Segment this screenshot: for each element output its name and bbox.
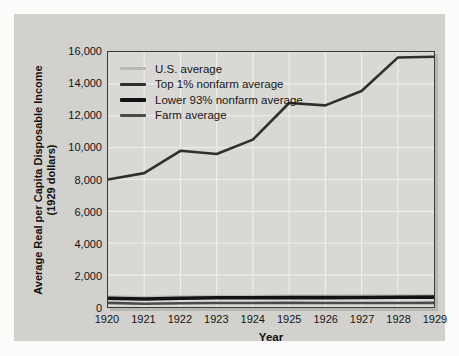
legend-item-lower-93-nonfarm-average: Lower 93% nonfarm average bbox=[120, 92, 303, 108]
legend-label: Farm average bbox=[155, 109, 227, 121]
figure-panel: Average Real per Capita Disposable Incom… bbox=[14, 14, 445, 341]
legend-label: U.S. average bbox=[155, 63, 222, 75]
y-axis-title-line1: Average Real per Capita Disposable Incom… bbox=[32, 52, 45, 309]
y-tick-label: 14,000 bbox=[50, 77, 102, 89]
y-tick-label: 16,000 bbox=[50, 45, 102, 57]
legend-label: Top 1% nonfarm average bbox=[155, 78, 284, 90]
y-tick-label: 8,000 bbox=[50, 174, 102, 186]
legend-line-swatch bbox=[120, 114, 146, 117]
legend: U.S. averageTop 1% nonfarm averageLower … bbox=[120, 61, 303, 123]
figure-screenshot: Average Real per Capita Disposable Incom… bbox=[0, 0, 459, 356]
legend-line-swatch bbox=[120, 67, 146, 70]
legend-line-swatch bbox=[120, 98, 146, 102]
lower-93-nonfarm-average-line bbox=[108, 297, 434, 299]
legend-item-top-1-nonfarm-average: Top 1% nonfarm average bbox=[120, 77, 303, 93]
legend-item-farm-average: Farm average bbox=[120, 108, 303, 124]
legend-item-u-s-average: U.S. average bbox=[120, 61, 303, 77]
x-tick-label: 1929 bbox=[413, 313, 457, 325]
y-tick-label: 12,000 bbox=[50, 109, 102, 121]
y-tick-label: 2,000 bbox=[50, 270, 102, 282]
legend-label: Lower 93% nonfarm average bbox=[155, 94, 303, 106]
y-tick-label: 4,000 bbox=[50, 238, 102, 250]
farm-average-line bbox=[108, 303, 434, 304]
x-axis-title: Year bbox=[107, 331, 435, 343]
legend-line-swatch bbox=[120, 83, 146, 86]
y-tick-label: 10,000 bbox=[50, 141, 102, 153]
y-tick-label: 6,000 bbox=[50, 206, 102, 218]
